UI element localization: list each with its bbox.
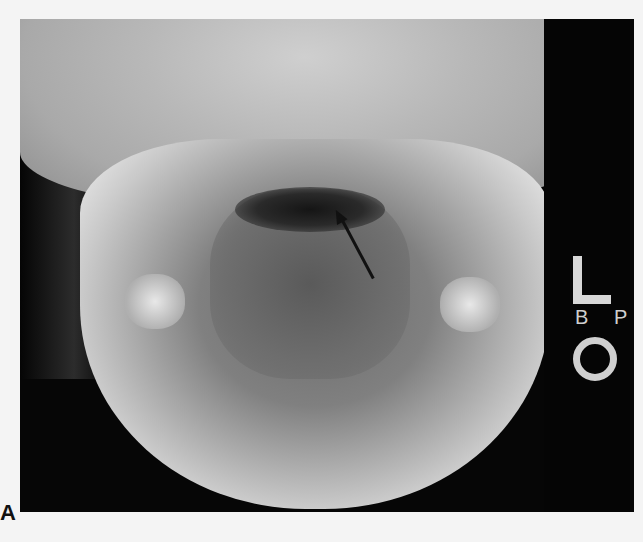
xray-image bbox=[20, 19, 634, 512]
side-marker-l bbox=[573, 256, 611, 304]
molar-right bbox=[440, 277, 500, 332]
molar-left bbox=[125, 274, 185, 329]
circle-marker bbox=[573, 337, 617, 381]
marker-text: B P bbox=[575, 306, 637, 329]
panel-label: A bbox=[0, 500, 16, 526]
airway-gap bbox=[235, 187, 385, 232]
